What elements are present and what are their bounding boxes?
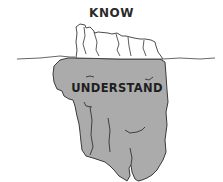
iceberg-submerged-body [53,58,168,181]
know-label: KNOW [0,6,223,20]
understand-label: UNDERSTAND [62,81,172,95]
iceberg-tip [76,24,163,59]
